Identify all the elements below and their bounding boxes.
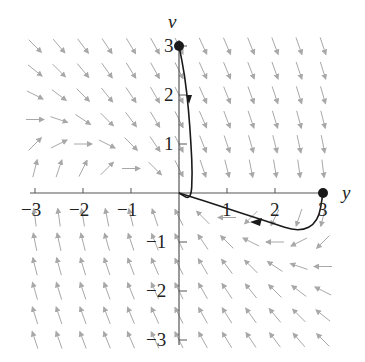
field-arrow [126,88,136,103]
field-arrow [57,258,62,275]
initial-point [318,188,328,198]
field-arrow [199,111,206,128]
field-arrow [321,111,325,128]
y-tick-label: −3 [146,330,166,349]
trajectory [179,46,192,197]
field-arrow [248,38,255,55]
field-arrow [199,38,207,54]
field-arrow [126,38,135,53]
v-axis-label: v [168,12,176,31]
field-arrow [296,86,301,103]
field-arrow [291,238,307,246]
field-arrow [128,258,134,275]
field-arrow [316,310,330,321]
field-arrow [58,209,61,227]
field-arrow [246,333,256,348]
field-arrow [125,138,138,151]
field-arrow [322,160,324,178]
field-arrow [57,233,61,251]
field-arrow [222,259,233,273]
field-arrow [32,331,38,348]
field-arrow [246,308,256,323]
field-arrow [76,115,91,125]
field-arrow [101,162,114,175]
field-arrow [198,259,207,274]
field-arrow [151,258,158,275]
field-arrow [29,138,42,151]
field-arrow [32,307,37,324]
field-arrow [317,334,330,347]
field-arrow [199,332,208,348]
field-arrow [315,287,331,295]
field-arrow [104,283,110,300]
field-arrow [126,112,137,126]
field-arrow [293,309,306,322]
field-arrow [225,160,229,177]
field-arrow [248,62,254,79]
field-arrow [290,264,307,270]
field-arrow [270,333,281,347]
field-arrow [249,135,254,152]
field-arrow [293,333,305,347]
field-arrow [128,283,135,300]
field-arrow [272,86,278,103]
field-arrow [104,307,110,324]
field-arrow [292,286,306,297]
field-arrow [51,140,67,148]
field-arrow [56,307,62,324]
y-tick-label: −1 [146,232,166,251]
field-arrow [296,38,302,55]
field-arrow [296,209,302,226]
y-axis-label: y [342,183,350,202]
field-arrow [28,65,42,76]
field-arrow [151,63,160,79]
phase-plane: v y −3−2−1123321−1−2−3 [0,0,365,362]
field-arrow [272,38,278,55]
field-arrow [198,235,208,250]
y-tick-label: 3 [164,36,174,55]
field-arrow [222,308,232,323]
field-arrow [33,160,37,177]
field-arrow [80,332,86,349]
field-arrow [223,38,230,55]
field-arrow [56,282,61,299]
field-arrow [317,236,330,249]
field-arrow [105,233,110,250]
field-arrow [320,62,325,79]
field-arrow [150,137,160,152]
field-arrow [77,64,89,78]
field-arrow [104,258,110,275]
field-arrow [321,86,326,103]
field-arrow [199,62,206,78]
field-arrow [81,233,85,250]
field-arrow [269,285,282,298]
x-tick-label: 1 [222,200,232,219]
y-tick-label: −2 [146,281,166,300]
field-arrow [56,332,62,349]
field-arrow [127,332,134,349]
field-arrow [104,332,111,349]
field-arrow [224,62,231,79]
field-arrow [101,88,112,102]
field-arrow [50,117,67,123]
field-arrow [80,282,86,299]
field-arrow [29,40,42,53]
field-arrow [102,63,112,78]
field-arrow [297,111,302,128]
field-arrow [245,260,258,273]
field-arrow [221,236,234,249]
x-tick-label: 3 [318,200,328,219]
field-arrow [298,160,301,178]
field-arrow [80,307,86,324]
field-arrow [224,87,231,104]
field-arrow [222,284,232,299]
field-arrow [126,63,136,78]
field-arrow [296,62,302,79]
field-arrow [199,308,208,324]
x-tick-label: 2 [270,200,280,219]
field-arrow [105,209,109,227]
field-arrow [33,258,37,275]
field-arrow [320,37,326,54]
field-arrow [248,87,254,104]
field-arrow [33,233,37,251]
